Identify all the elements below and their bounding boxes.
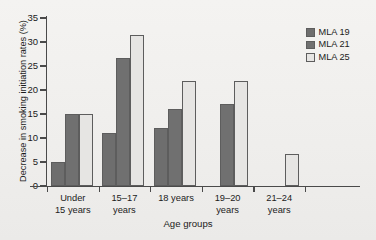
y-axis-tick-label: 25 <box>4 61 38 71</box>
x-axis-tick <box>253 186 254 192</box>
legend-label: MLA 25 <box>319 53 350 62</box>
bar-series-group <box>47 18 305 186</box>
x-axis-category-label: 21–24years <box>244 193 314 216</box>
legend-label: MLA 19 <box>319 28 350 37</box>
bar-mla-25-2 <box>182 81 196 186</box>
bar-mla-25-4 <box>285 154 299 186</box>
legend-swatch-icon <box>306 41 315 50</box>
bar-mla-25-1 <box>130 35 144 186</box>
chart-legend: MLA 19MLA 21MLA 25 <box>306 26 376 64</box>
x-axis-tick <box>202 186 203 192</box>
bar-mla-21-3 <box>220 104 234 186</box>
y-axis-tick-label: 30 <box>4 37 38 47</box>
y-axis-tick-label: 15 <box>4 109 38 119</box>
x-axis-tick <box>47 186 48 192</box>
x-axis-category-line: 21–24 <box>244 193 314 205</box>
bar-mla-21-2 <box>168 109 182 186</box>
y-axis-labels: 05101520253035 <box>0 0 38 240</box>
legend-swatch-icon <box>306 53 315 62</box>
y-axis-tick-label: 5 <box>4 157 38 167</box>
bar-mla-19-0 <box>51 162 65 186</box>
bar-mla-21-1 <box>116 58 130 186</box>
y-axis-tick-label: 20 <box>4 85 38 95</box>
legend-item-mla-19: MLA 19 <box>306 26 376 39</box>
x-axis-tick <box>305 186 306 192</box>
bar-mla-25-0 <box>79 114 93 186</box>
y-axis-tick-label: 10 <box>4 133 38 143</box>
x-axis-category-line: years <box>244 205 314 217</box>
bar-mla-19-2 <box>154 128 168 186</box>
x-axis-tick <box>150 186 151 192</box>
legend-item-mla-21: MLA 21 <box>306 39 376 52</box>
bar-mla-25-3 <box>234 81 248 186</box>
y-axis-tick-label: 35 <box>4 13 38 23</box>
x-axis-title: Age groups <box>0 218 376 229</box>
legend-label: MLA 21 <box>319 40 350 49</box>
legend-item-mla-25: MLA 25 <box>306 51 376 64</box>
bar-mla-21-0 <box>65 114 79 186</box>
chart-canvas: Decrease in smoking initiation rates (%)… <box>0 0 376 240</box>
bar-mla-19-1 <box>102 133 116 186</box>
x-axis-tick <box>99 186 100 192</box>
legend-swatch-icon <box>306 28 315 37</box>
x-axis-line <box>30 186 360 187</box>
x-axis-category-line: years <box>89 205 159 217</box>
